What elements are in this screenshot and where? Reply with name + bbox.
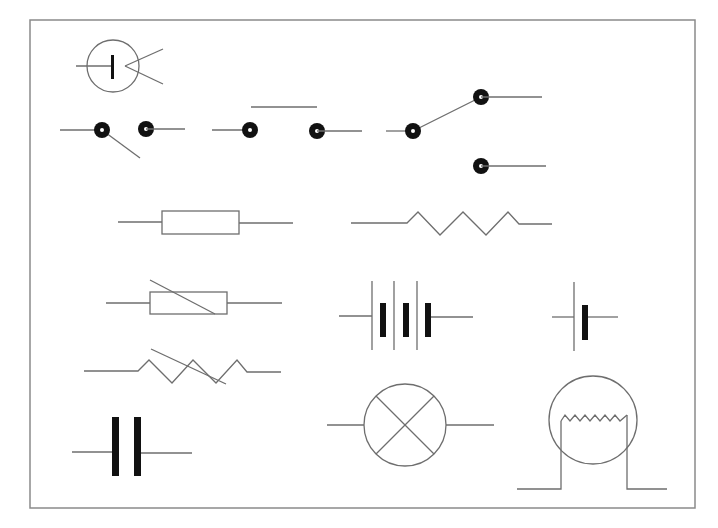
circuit-symbols-diagram <box>0 0 718 528</box>
variable-resistor-zigzag-symbol <box>84 349 281 384</box>
lamp-symbol <box>327 384 494 466</box>
cell-symbol <box>552 282 618 351</box>
diagram-frame <box>30 20 695 508</box>
fixed-resistor-zigzag-symbol <box>351 212 552 235</box>
fixed-resistor-box-symbol <box>118 211 293 234</box>
light-dependent-cell-symbol <box>76 40 163 92</box>
push-to-make-switch-symbol <box>212 107 362 139</box>
open-switch-symbol <box>60 121 185 158</box>
filament-lamp-symbol <box>517 376 667 489</box>
battery-symbol <box>339 281 473 350</box>
two-way-switch-symbol <box>386 89 546 174</box>
variable-resistor-box-symbol <box>106 280 282 314</box>
capacitor-symbol <box>72 417 192 476</box>
